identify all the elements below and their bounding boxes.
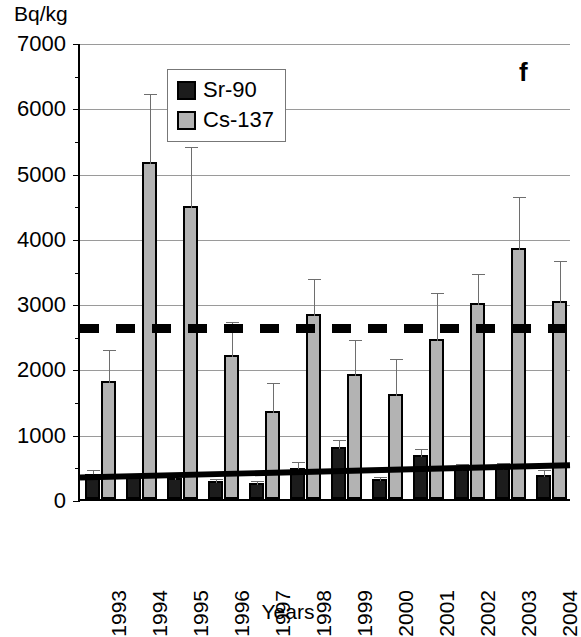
bar-cs-137: [224, 355, 239, 499]
error-bar-cs-137: [519, 197, 520, 249]
bar-sr-90: [536, 475, 551, 499]
bar-group: [531, 44, 572, 499]
x-axis-title: Years: [0, 600, 576, 624]
chart-legend: Sr-90 Cs-137: [167, 69, 286, 142]
y-axis-tick: [73, 44, 80, 45]
legend-swatch-cs-137: [177, 111, 196, 130]
error-bar-cs-137: [437, 293, 438, 341]
bar-sr-90: [413, 455, 428, 499]
legend-swatch-sr-90: [177, 81, 196, 100]
error-bar-cs-137: [478, 274, 479, 305]
y-axis-tick: [73, 370, 80, 371]
legend-label-sr-90: Sr-90: [203, 79, 257, 101]
bar-group: [285, 44, 326, 499]
y-axis-tick: [73, 305, 80, 306]
bar-sr-90: [167, 478, 182, 499]
error-bar-cs-137: [191, 147, 192, 208]
y-axis-tick-label: 0: [54, 490, 66, 512]
error-bar-sr-90-cap: [292, 462, 305, 463]
y-axis-tick-label: 5000: [17, 164, 66, 186]
y-axis-tick-label: 1000: [17, 425, 66, 447]
y-axis-tick-label: 4000: [17, 229, 66, 251]
error-bar-sr-90-cap: [169, 476, 182, 477]
bar-sr-90: [372, 479, 387, 499]
error-bar-sr-90: [339, 440, 340, 448]
error-bar-cs-137-cap: [513, 197, 526, 198]
bar-cs-137: [511, 248, 526, 499]
bar-group: [490, 44, 531, 499]
error-bar-sr-90-cap: [456, 464, 469, 465]
error-bar-cs-137-cap: [144, 94, 157, 95]
legend-label-cs-137: Cs-137: [203, 109, 274, 131]
error-bar-cs-137-cap: [349, 340, 362, 341]
bar-sr-90: [495, 468, 510, 499]
bar-sr-90: [249, 483, 264, 499]
reference-dashed-line: [80, 324, 570, 333]
bar-sr-90: [208, 481, 223, 499]
error-bar-cs-137: [314, 279, 315, 316]
bar-group: [408, 44, 449, 499]
error-bar-cs-137: [355, 340, 356, 376]
bar-group: [449, 44, 490, 499]
bar-sr-90: [290, 468, 305, 499]
error-bar-cs-137-cap: [267, 383, 280, 384]
y-axis-tick: [73, 436, 80, 437]
error-bar-cs-137: [560, 261, 561, 303]
y-axis-tick: [73, 175, 80, 176]
error-bar-sr-90-cap: [374, 477, 387, 478]
legend-item-cs-137: Cs-137: [177, 105, 274, 135]
error-bar-sr-90-cap: [128, 475, 141, 476]
error-bar-cs-137-cap: [103, 350, 116, 351]
bar-sr-90: [126, 477, 141, 499]
y-axis-tick: [73, 501, 80, 502]
y-axis-tick-label: 2000: [17, 359, 66, 381]
bar-cs-137: [183, 206, 198, 499]
bar-sr-90: [454, 469, 469, 499]
bar-sr-90: [85, 474, 100, 499]
error-bar-cs-137-cap: [472, 274, 485, 275]
bar-cs-137: [101, 381, 116, 499]
bar-cs-137: [265, 411, 280, 499]
legend-item-sr-90: Sr-90: [177, 75, 274, 105]
y-axis-tick-labels: 01000200030004000500060007000: [0, 0, 72, 632]
y-axis-tick: [73, 240, 80, 241]
bar-group: [326, 44, 367, 499]
panel-letter: f: [519, 59, 528, 85]
error-bar-cs-137: [396, 359, 397, 396]
bar-group: [80, 44, 121, 499]
bar-cs-137: [347, 374, 362, 499]
error-bar-sr-90-cap: [538, 470, 551, 471]
y-axis-tick: [73, 109, 80, 110]
error-bar-cs-137: [273, 383, 274, 413]
error-bar-cs-137-cap: [226, 322, 239, 323]
error-bar-cs-137-cap: [390, 359, 403, 360]
bar-group: [121, 44, 162, 499]
y-axis-tick-label: 6000: [17, 98, 66, 120]
error-bar-sr-90: [298, 462, 299, 470]
error-bar-cs-137: [150, 94, 151, 164]
error-bar-sr-90-cap: [497, 463, 510, 464]
error-bar-sr-90-cap: [251, 481, 264, 482]
error-bar-sr-90-cap: [87, 470, 100, 471]
y-axis-tick-label: 3000: [17, 294, 66, 316]
error-bar-cs-137: [109, 350, 110, 383]
error-bar-cs-137-cap: [185, 147, 198, 148]
error-bar-sr-90-cap: [415, 449, 428, 450]
bar-group: [367, 44, 408, 499]
bar-sr-90: [331, 447, 346, 499]
error-bar-sr-90-cap: [333, 440, 346, 441]
y-axis-tick-label: 7000: [17, 33, 66, 55]
error-bar-sr-90: [421, 449, 422, 457]
error-bar-sr-90-cap: [210, 479, 223, 480]
bar-cs-137: [388, 394, 403, 499]
bar-cs-137: [306, 314, 321, 499]
bar-cs-137: [429, 339, 444, 499]
plot-area: [78, 44, 570, 501]
error-bar-cs-137-cap: [431, 293, 444, 294]
x-axis-tick-labels: 1993199419951996199719981999200020012002…: [78, 505, 570, 595]
error-bar-cs-137-cap: [308, 279, 321, 280]
error-bar-cs-137-cap: [554, 261, 567, 262]
